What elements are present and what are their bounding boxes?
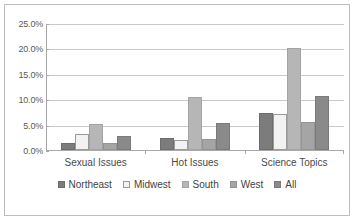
- y-axis-tick-label: 5.0%: [23, 121, 43, 131]
- bar-midwest-sexual-issues[interactable]: [75, 134, 89, 150]
- bar-group: [46, 24, 145, 150]
- legend-swatch-icon: [274, 181, 281, 188]
- bar-midwest-hot-issues[interactable]: [174, 140, 188, 150]
- legend-swatch-icon: [123, 181, 130, 188]
- legend-item-west[interactable]: West: [230, 179, 264, 190]
- chart-plot-wrapper: 25.0%20.0%15.0%10.0%5.0%0.0% NortheastMi…: [5, 5, 349, 215]
- y-axis-tick-mark: [46, 151, 49, 152]
- x-axis-separator-tick: [145, 151, 146, 154]
- legend-label: Northeast: [69, 179, 112, 190]
- bar-northeast-science-topics[interactable]: [259, 113, 273, 150]
- bar-group-bars: [46, 24, 145, 150]
- legend-label: Midwest: [134, 179, 171, 190]
- legend-label: All: [285, 179, 296, 190]
- bar-group-bars: [245, 24, 344, 150]
- y-axis-tick-label: 10.0%: [18, 95, 43, 105]
- x-axis-category-label: Hot Issues: [145, 157, 244, 168]
- x-axis-separator-tick: [245, 151, 246, 154]
- bar-all-hot-issues[interactable]: [216, 123, 230, 150]
- x-axis-category-label: Science Topics: [245, 157, 344, 168]
- y-axis-tick-label: 15.0%: [18, 70, 43, 80]
- y-axis-tick-mark: [46, 24, 49, 25]
- y-axis-tick-label: 0.0%: [23, 146, 43, 156]
- y-axis-tick-mark: [46, 49, 49, 50]
- bar-south-sexual-issues[interactable]: [89, 124, 103, 150]
- bar-northeast-hot-issues[interactable]: [160, 138, 174, 150]
- legend-swatch-icon: [58, 181, 65, 188]
- bar-south-hot-issues[interactable]: [188, 97, 202, 150]
- x-axis-separator-tick: [343, 151, 344, 154]
- y-axis-tick-mark: [46, 100, 49, 101]
- bar-northeast-sexual-issues[interactable]: [61, 143, 75, 150]
- legend-item-south[interactable]: South: [182, 179, 219, 190]
- bar-all-science-topics[interactable]: [315, 96, 329, 150]
- y-axis-tick-mark: [46, 75, 49, 76]
- legend-item-northeast[interactable]: Northeast: [58, 179, 112, 190]
- legend-swatch-icon: [230, 181, 237, 188]
- bar-west-hot-issues[interactable]: [202, 139, 216, 150]
- bar-group: [245, 24, 344, 150]
- bar-west-sexual-issues[interactable]: [103, 143, 117, 150]
- y-axis-tick-label: 25.0%: [18, 19, 43, 29]
- x-axis-line: [46, 150, 344, 151]
- y-axis-tick-labels: 25.0%20.0%15.0%10.0%5.0%0.0%: [5, 24, 43, 151]
- chart-frame: 25.0%20.0%15.0%10.0%5.0%0.0% NortheastMi…: [4, 4, 350, 216]
- bar-west-science-topics[interactable]: [301, 122, 315, 150]
- y-axis-tick-mark: [46, 126, 49, 127]
- legend-label: West: [241, 179, 264, 190]
- y-axis-tick-label: 20.0%: [18, 44, 43, 54]
- chart-legend: NortheastMidwestSouthWestAll: [5, 179, 349, 190]
- bar-south-science-topics[interactable]: [287, 48, 301, 150]
- legend-label: South: [193, 179, 219, 190]
- x-axis-category-label: Sexual Issues: [46, 157, 145, 168]
- plot-area: [46, 24, 344, 151]
- legend-swatch-icon: [182, 181, 189, 188]
- bar-all-sexual-issues[interactable]: [117, 136, 131, 150]
- bar-midwest-science-topics[interactable]: [273, 114, 287, 150]
- bar-group: [145, 24, 244, 150]
- bar-group-bars: [145, 24, 244, 150]
- legend-item-midwest[interactable]: Midwest: [123, 179, 171, 190]
- legend-item-all[interactable]: All: [274, 179, 296, 190]
